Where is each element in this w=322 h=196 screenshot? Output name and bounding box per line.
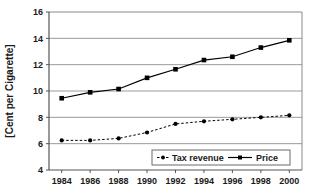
y-tick-label-4: 4 bbox=[38, 165, 43, 175]
data-point bbox=[116, 87, 121, 92]
data-point bbox=[88, 138, 92, 142]
data-point bbox=[259, 45, 264, 50]
chart-legend: Tax revenue Price bbox=[152, 150, 290, 165]
x-tick-label-1996: 1996 bbox=[222, 176, 242, 186]
legend-marker-tax-revenue bbox=[161, 156, 165, 160]
data-point bbox=[287, 113, 291, 117]
x-tick-label-1984: 1984 bbox=[52, 176, 72, 186]
y-tick-label-12: 12 bbox=[33, 60, 43, 70]
data-point bbox=[259, 115, 263, 119]
y-tick-label-6: 6 bbox=[38, 139, 43, 149]
y-tick-label-16: 16 bbox=[33, 7, 43, 17]
data-point bbox=[145, 130, 149, 134]
data-point bbox=[60, 138, 64, 142]
legend-label-price: Price bbox=[256, 153, 278, 163]
data-point bbox=[88, 90, 93, 95]
y-axis-label: [Cent per Cigarette] bbox=[4, 44, 15, 137]
data-point bbox=[287, 38, 292, 43]
legend-label-tax-revenue: Tax revenue bbox=[172, 153, 224, 163]
y-tick-label-14: 14 bbox=[33, 34, 43, 44]
x-tick-label-1988: 1988 bbox=[109, 176, 129, 186]
y-tick-label-10: 10 bbox=[33, 86, 43, 96]
data-point bbox=[202, 58, 207, 63]
x-tick-label-1990: 1990 bbox=[137, 176, 157, 186]
data-point bbox=[173, 67, 178, 72]
data-point bbox=[230, 117, 234, 121]
data-point bbox=[202, 119, 206, 123]
line-chart: 46810121416 1984198619881990199219941996… bbox=[0, 0, 322, 196]
data-point bbox=[230, 54, 235, 59]
x-axis-tick-labels: 198419861988199019921994199619982000 bbox=[52, 176, 300, 186]
data-point bbox=[117, 136, 121, 140]
data-point bbox=[59, 96, 64, 101]
legend-marker-price bbox=[238, 156, 242, 160]
x-tick-label-1992: 1992 bbox=[165, 176, 185, 186]
data-point bbox=[145, 76, 150, 81]
x-tick-label-1986: 1986 bbox=[80, 176, 100, 186]
chart-container: 46810121416 1984198619881990199219941996… bbox=[0, 0, 322, 196]
data-point bbox=[173, 122, 177, 126]
x-tick-label-1998: 1998 bbox=[251, 176, 271, 186]
x-tick-label-1994: 1994 bbox=[194, 176, 214, 186]
y-tick-label-8: 8 bbox=[38, 113, 43, 123]
x-tick-label-2000: 2000 bbox=[279, 176, 299, 186]
